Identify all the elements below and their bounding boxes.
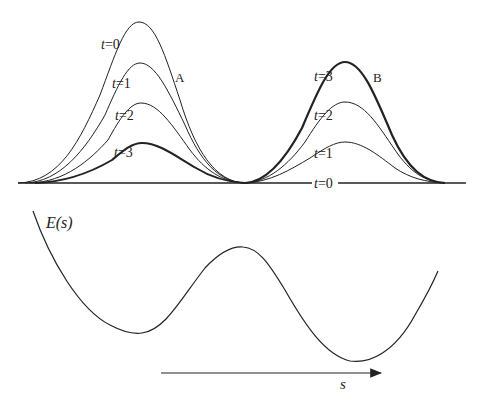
well-a-label: A (175, 70, 185, 85)
label-b-t0: t=0 (314, 176, 333, 191)
axis-label-s: s (340, 376, 346, 392)
label-b-t3: t=3 (314, 69, 333, 84)
label-a-t0: t=0 (101, 37, 120, 52)
well-b-label: B (373, 70, 382, 85)
curve-b-t3 (245, 62, 445, 183)
label-a-t1: t=1 (112, 76, 131, 91)
curve-b-t1 (245, 142, 445, 183)
well-b-distributions (245, 62, 445, 183)
top-panel-labels: t=0 t=1 t=2 t=3 A t=3 t=2 t=1 t=0 B (101, 37, 382, 191)
label-a-t3: t=3 (114, 145, 133, 160)
label-b-t1: t=1 (314, 146, 333, 161)
curve-a-t1 (25, 63, 245, 183)
diagram-canvas: t=0 t=1 t=2 t=3 A t=3 t=2 t=1 t=0 B E(s)… (0, 0, 489, 403)
energy-label: E(s) (45, 214, 73, 232)
energy-curve (33, 211, 438, 361)
label-a-t2: t=2 (115, 108, 134, 123)
label-b-t2: t=2 (314, 108, 333, 123)
curve-a-t3 (35, 143, 245, 183)
